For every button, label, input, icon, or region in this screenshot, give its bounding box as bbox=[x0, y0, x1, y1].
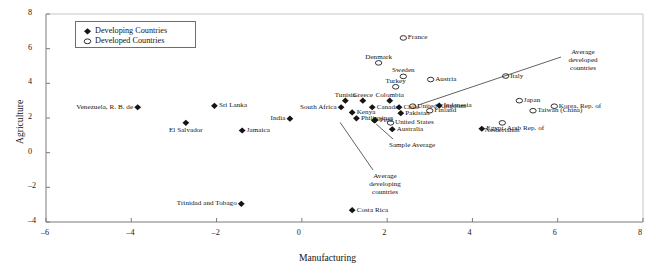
x-tick-label: 8 bbox=[638, 228, 642, 237]
point-label: Peru bbox=[380, 116, 393, 124]
legend-label-developing: Developing Countries bbox=[95, 26, 167, 35]
point-label: El Salvador bbox=[169, 126, 203, 134]
marker-open-ellipse bbox=[392, 85, 398, 90]
y-tick-label: 4 bbox=[28, 77, 32, 86]
point-label: Taiwan (China) bbox=[537, 106, 582, 114]
point-label: Costa Rica bbox=[357, 206, 388, 214]
point-label: Turkey bbox=[385, 77, 406, 85]
x-tick-label: –4 bbox=[126, 228, 134, 237]
y-tick-label: –2 bbox=[28, 181, 36, 190]
x-tick-label: 0 bbox=[297, 228, 301, 237]
point-label: Sweden bbox=[392, 66, 415, 74]
marker-filled-diamond bbox=[238, 201, 245, 207]
point-label: Finland bbox=[434, 106, 456, 114]
marker-filled-diamond bbox=[349, 207, 356, 213]
y-axis-title: Agriculture bbox=[14, 100, 25, 144]
point-label: South Africa bbox=[300, 103, 337, 111]
point-label: Colombia bbox=[375, 91, 403, 99]
scatter-plot-figure: Developing Countries Developed Countries… bbox=[0, 0, 656, 277]
marker-filled-diamond bbox=[134, 104, 141, 110]
x-tick-label: 4 bbox=[467, 228, 471, 237]
point-label: Japan bbox=[524, 96, 540, 104]
marker-filled-diamond bbox=[211, 103, 218, 109]
marker-open-ellipse bbox=[530, 108, 536, 113]
leader-line-sample-average bbox=[376, 124, 393, 139]
marker-open-ellipse bbox=[427, 77, 433, 82]
x-tick-label: 2 bbox=[382, 228, 386, 237]
point-label: United States bbox=[395, 118, 434, 126]
point-label: Greece bbox=[353, 91, 373, 99]
point-label: Italy bbox=[510, 72, 523, 80]
y-tick-label: 2 bbox=[28, 112, 32, 121]
open-ellipse-icon bbox=[82, 37, 93, 46]
annotation-average-developing: Average developing countries bbox=[369, 172, 401, 197]
y-tick-label: 0 bbox=[28, 147, 32, 156]
y-tick-label: 8 bbox=[28, 8, 32, 17]
point-label: Pakistan bbox=[405, 109, 429, 117]
marker-open-ellipse bbox=[516, 98, 522, 103]
y-tick-label: –4 bbox=[28, 216, 36, 225]
annotation-average-developed: Average developed countries bbox=[568, 48, 597, 73]
marker-filled-diamond bbox=[338, 104, 345, 110]
x-tick-label: –2 bbox=[212, 228, 220, 237]
point-label: Venezuela, R. B. de bbox=[76, 103, 133, 111]
filled-diamond-icon bbox=[82, 27, 93, 36]
leader-line-developing bbox=[340, 122, 373, 170]
annotation-sample-average: Sample Average bbox=[389, 141, 435, 149]
marker-filled-diamond bbox=[389, 126, 396, 132]
marker-filled-diamond bbox=[239, 127, 246, 133]
point-label: Denmark bbox=[365, 53, 392, 61]
point-label: Austria bbox=[435, 75, 456, 83]
point-label: France bbox=[408, 33, 428, 41]
x-tick-label: –6 bbox=[41, 228, 49, 237]
point-label: Canada bbox=[377, 103, 399, 111]
x-tick-label: 6 bbox=[553, 228, 557, 237]
point-label: India bbox=[271, 114, 286, 122]
x-axis-title: Manufacturing bbox=[299, 252, 356, 263]
marker-filled-diamond bbox=[397, 110, 404, 116]
point-label: Netherlands bbox=[485, 126, 520, 134]
chart-legend: Developing Countries Developed Countries bbox=[75, 21, 196, 48]
point-label: Trinidad and Tobago bbox=[177, 199, 237, 207]
point-label: Sri Lanka bbox=[219, 101, 247, 109]
marker-open-ellipse bbox=[375, 61, 381, 66]
legend-label-developed: Developed Countries bbox=[95, 36, 164, 45]
y-tick-label: 6 bbox=[28, 43, 32, 52]
marker-filled-diamond bbox=[349, 109, 356, 115]
marker-open-ellipse bbox=[400, 36, 406, 41]
marker-filled-diamond bbox=[287, 116, 294, 122]
marker-filled-diamond bbox=[353, 115, 360, 121]
point-label: Jamaica bbox=[247, 126, 270, 134]
